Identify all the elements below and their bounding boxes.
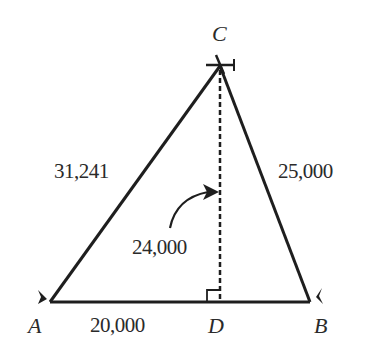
station-marker-b	[316, 288, 323, 304]
right-angle-marker	[207, 290, 220, 302]
label-b: B	[314, 313, 327, 338]
station-marker-a	[38, 290, 47, 304]
length-cb: 25,000	[278, 159, 333, 183]
side-ac	[50, 66, 220, 302]
length-ac: 31,241	[54, 159, 109, 183]
label-d: D	[207, 313, 224, 338]
label-c: C	[212, 21, 227, 46]
side-cb	[220, 66, 310, 302]
triangle-diagram: C A D B 31,241 25,000 24,000 20,000	[0, 0, 375, 359]
label-a: A	[26, 313, 42, 338]
curved-arrow	[170, 192, 208, 228]
length-cd: 24,000	[132, 235, 187, 259]
length-ad: 20,000	[90, 313, 145, 337]
